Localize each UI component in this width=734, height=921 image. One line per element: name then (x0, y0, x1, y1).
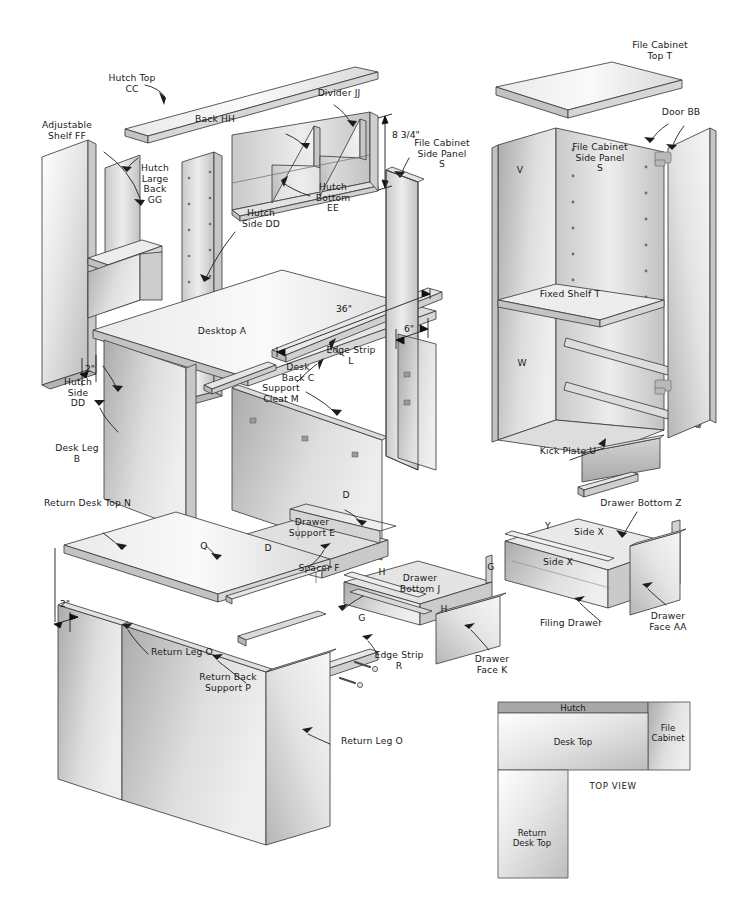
label-side-x-upper: Side X (569, 527, 609, 538)
top-view-label-hutch: Hutch (533, 703, 613, 713)
label-fixed-shelf-t: Fixed Shelf T (528, 289, 612, 300)
label-drawer-bottom-z: Drawer Bottom Z (590, 498, 692, 509)
label-filing-drawer: Filing Drawer (531, 618, 611, 629)
label-q: Q (197, 541, 211, 552)
label-y: Y (541, 521, 555, 532)
label-panel-w: W (514, 358, 530, 369)
label-desk-back-c: Desk Back C (272, 362, 324, 383)
label-adjustable-shelf-ff: Adjustable Shelf FF (24, 120, 110, 141)
label-drawer-face-aa: Drawer Face AA (639, 611, 697, 632)
label-hutch-large-back-gg: Hutch Large Back GG (130, 163, 180, 205)
part-return-leg-o-right (266, 649, 336, 845)
label-return-leg-o-upper: Return Leg O (140, 647, 224, 658)
label-file-cabinet-side-panel-right: File Cabinet Side Panel S (556, 142, 644, 174)
label-kick-plate-u: Kick Plate U (530, 446, 606, 457)
label-back-hh: Back HH (178, 114, 252, 125)
label-drawer-face-k: Drawer Face K (464, 654, 520, 675)
label-g-right: G (484, 562, 498, 573)
label-spacer-f: Spacer F (288, 563, 350, 574)
part-return-leg-o-left (58, 602, 128, 800)
label-drawer-support-e: Drawer Support E (281, 517, 343, 538)
label-side-x-lower: Side X (538, 557, 578, 568)
label-hutch-bottom-ee: Hutch Bottom EE (300, 182, 366, 214)
label-h-top: H (375, 567, 389, 578)
part-return-slide-rail (238, 611, 326, 646)
label-g-left: G (355, 613, 369, 624)
label-drawer-bottom-j: Drawer Bottom J (389, 573, 451, 594)
label-desk-leg-b: Desk Leg B (48, 443, 106, 464)
label-hutch-top-cc: Hutch Top CC (86, 73, 178, 94)
label-h-bottom: H (437, 604, 451, 615)
dimension-file-cabinet-gap: 6" (404, 323, 414, 334)
top-view-label-file-cabinet: File Cabinet (645, 723, 691, 743)
label-door-bb: Door BB (650, 107, 712, 118)
label-d-side: D (261, 543, 275, 554)
top-view-label-return-desk-top: Return Desk Top (498, 828, 566, 848)
label-return-back-support-p: Return Back Support P (182, 672, 274, 693)
dimension-desktop-length: 36" (336, 303, 352, 314)
top-view-label-desk-top: Desk Top (533, 737, 613, 747)
dimension-hutch-opening-height: 8 3/4" (392, 129, 420, 140)
label-edge-strip-r: Edge Strip R (367, 650, 431, 671)
dimension-hutch-side-thickness: 2" (85, 363, 95, 374)
label-file-cabinet-side-panel-left: File Cabinet Side Panel S (398, 138, 486, 170)
label-panel-v: V (512, 165, 528, 176)
diagram-canvas: Hutch Top CC Divider JJ Back HH Adjustab… (0, 0, 734, 921)
label-file-cabinet-top-t: File Cabinet Top T (612, 40, 708, 61)
label-edge-strip-l: Edge Strip L (316, 345, 386, 366)
label-return-desk-top-n: Return Desk Top N (44, 498, 174, 509)
label-support-cleat-m: Support Cleat M (250, 383, 312, 404)
label-hutch-side-dd-left: Hutch Side DD (50, 377, 106, 409)
label-hutch-side-dd-center: Hutch Side DD (230, 208, 292, 229)
top-view-caption: TOP VIEW (575, 781, 651, 791)
label-return-leg-o-lower: Return Leg O (330, 736, 414, 747)
label-d-top: D (339, 490, 353, 501)
part-door-bb (668, 128, 716, 438)
dimension-return-top-thickness: 2" (60, 598, 70, 609)
label-divider-jj: Divider JJ (297, 88, 381, 99)
label-desktop-a: Desktop A (186, 326, 258, 337)
